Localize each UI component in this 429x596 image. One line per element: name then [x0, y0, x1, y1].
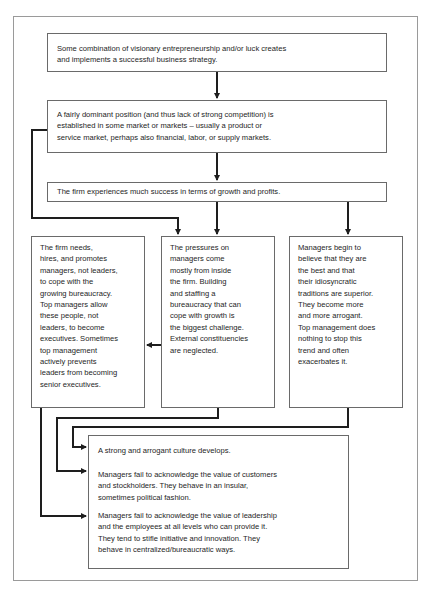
box-text-line: and staffing a [170, 288, 274, 299]
box-text-line: service market, perhaps also financial, … [57, 132, 386, 143]
box-text-line: and implements a successful business str… [57, 54, 386, 65]
box-text-line: senior executives. [40, 379, 144, 390]
box-text-line: A fairly dominant position (and thus lac… [57, 109, 386, 120]
box-text-line: traditions are superior. [298, 288, 402, 299]
box-text-line: They become more [298, 299, 402, 310]
box-text-line: these people, not [40, 310, 144, 321]
box-text-line: They tend to stifle initiative and innov… [98, 533, 277, 544]
box-text-line: cope with growth is [170, 310, 274, 321]
box-text-line: growing bureaucracy. [40, 288, 144, 299]
box-text-line: Top managers allow [40, 299, 144, 310]
box-text-line: executives. Sometimes [40, 333, 144, 344]
box-managers-arrogance: Managers begin to believe that they are … [289, 236, 403, 408]
outcome-stifled-leadership: Managers fail to acknowledge the value o… [98, 510, 277, 556]
box-text-line: are neglected. [170, 345, 274, 356]
box-text-line: established in some market or markets – … [57, 120, 386, 131]
box-growth-success: The firm experiences much success in ter… [47, 182, 387, 202]
box-outcomes: A strong and arrogant culture develops. … [88, 435, 349, 569]
box-text-line: the firm. Building [170, 276, 274, 287]
box-text-line: bureaucracy that can [170, 299, 274, 310]
box-text-line: The firm experiences much success in ter… [57, 186, 386, 197]
box-text-line: trend and often [298, 345, 402, 356]
box-text-line: managers come [170, 253, 274, 264]
box-text-line: and the employees at all levels who can … [98, 521, 277, 532]
box-text-line: Managers fail to acknowledge the value o… [98, 510, 277, 521]
box-text-line: top management [40, 345, 144, 356]
box-text-line: to cope with the [40, 276, 144, 287]
box-text-line: the best and that [298, 265, 402, 276]
box-text-line: Managers fail to acknowledge the value o… [98, 469, 277, 480]
box-text-line: believe that they are [298, 253, 402, 264]
box-text-line: External constituencies [170, 333, 274, 344]
box-text-line: behave in centralized/bureaucratic ways. [98, 544, 277, 555]
box-text-line: exacerbates it. [298, 356, 402, 367]
box-successful-strategy: Some combination of visionary entreprene… [47, 33, 387, 72]
box-text-line: the biggest challenge. [170, 322, 274, 333]
box-text-line: Top management does [298, 322, 402, 333]
box-text-line: and stockholders. They behave in an insu… [98, 480, 277, 491]
box-managers-not-leaders: The firm needs, hires, and promotes mana… [31, 236, 145, 408]
box-text-line: mostly from inside [170, 265, 274, 276]
box-text-line: Some combination of visionary entreprene… [57, 43, 386, 54]
box-text-line: Managers begin to [298, 242, 402, 253]
box-internal-pressures: The pressures on managers come mostly fr… [161, 236, 275, 408]
box-text-line: The pressures on [170, 242, 274, 253]
box-text-line: leaders, to become [40, 322, 144, 333]
box-text-line: A strong and arrogant culture develops. [98, 445, 231, 456]
box-text-line: and more arrogant. [298, 310, 402, 321]
outcome-arrogant-culture: A strong and arrogant culture develops. [98, 445, 231, 456]
box-text-line: managers, not leaders, [40, 265, 144, 276]
box-text-line: hires, and promotes [40, 253, 144, 264]
box-text-line: sometimes political fashion. [98, 492, 277, 503]
box-text-line: The firm needs, [40, 242, 144, 253]
box-dominant-position: A fairly dominant position (and thus lac… [47, 100, 387, 153]
box-text-line: leaders from becoming [40, 367, 144, 378]
box-text-line: nothing to stop this [298, 333, 402, 344]
box-text-line: actively prevents [40, 356, 144, 367]
box-text-line: their idiosyncratic [298, 276, 402, 287]
outcome-insular-behavior: Managers fail to acknowledge the value o… [98, 469, 277, 503]
